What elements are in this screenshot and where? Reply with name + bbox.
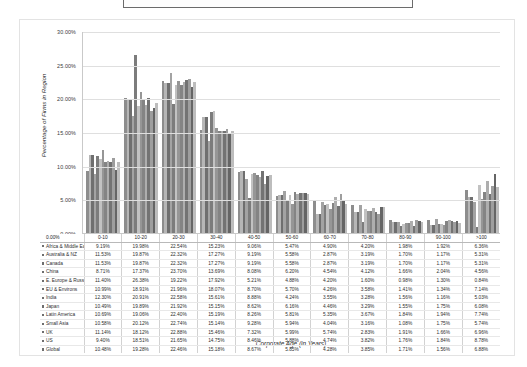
- y-tick-label: 25.00%: [57, 63, 76, 69]
- y-tick-label: 20.00%: [57, 96, 76, 102]
- table-cell: 3.29%: [349, 302, 387, 311]
- table-row: Australia & NZ11.53%19.87%22.32%17.27%9.…: [40, 251, 500, 260]
- table-cell: 3.16%: [349, 319, 387, 328]
- table-row-label: Australia & NZ: [40, 251, 84, 260]
- table-header-row: 0.00%0-1010-2020-3030-4040-5050-6060-707…: [40, 234, 500, 242]
- y-tick-label: 30.00%: [57, 29, 76, 35]
- table-cell: 10.99%: [84, 285, 122, 294]
- table-cell: 4.24%: [273, 294, 311, 303]
- table-column-header: 0-10: [84, 234, 122, 242]
- table-cell: 9.28%: [235, 319, 273, 328]
- table-cell: 5.31%: [462, 259, 500, 268]
- table-cell: 5.31%: [462, 251, 500, 260]
- table-row-label: US: [40, 337, 84, 346]
- table-cell: 11.40%: [84, 276, 122, 285]
- bar-group: [463, 31, 501, 233]
- bar: [155, 103, 158, 233]
- table-cell: 10.58%: [84, 319, 122, 328]
- table-cell: 4.74%: [311, 337, 349, 346]
- table-cell: 10.69%: [84, 311, 122, 320]
- table-cell: 8.70%: [235, 285, 273, 294]
- y-axis-labels: 30.00%25.00%20.00%15.00%10.00%5.00%0.00%: [20, 32, 80, 235]
- table-cell: 22.40%: [160, 311, 198, 320]
- table-cell: 10.49%: [84, 302, 122, 311]
- table-cell: 1.75%: [424, 319, 462, 328]
- table-column-header: >100: [462, 234, 500, 242]
- table-cell: 6.88%: [462, 345, 500, 353]
- table-column-header: 30-40: [197, 234, 235, 242]
- table-cell: 22.58%: [160, 294, 198, 303]
- table-cell: 23.70%: [160, 268, 198, 277]
- table-column-header: 50-60: [273, 234, 311, 242]
- table-cell: 1.70%: [387, 259, 425, 268]
- bar: [193, 82, 196, 233]
- table-cell: 21.92%: [160, 302, 198, 311]
- table-cell: 5.88%: [273, 337, 311, 346]
- table-cell: 5.35%: [311, 311, 349, 320]
- table-cell: 2.04%: [424, 268, 462, 277]
- table-cell: 8.67%: [235, 345, 273, 353]
- gridline: [83, 99, 500, 100]
- table-cell: 2.83%: [349, 328, 387, 337]
- table-cell: 1.60%: [349, 276, 387, 285]
- table-cell: 22.46%: [160, 345, 198, 353]
- table-cell: 3.85%: [349, 345, 387, 353]
- bar: [383, 207, 386, 233]
- table-cell: 5.58%: [273, 259, 311, 268]
- table-cell: 7.32%: [235, 328, 273, 337]
- table-cell: 4.54%: [311, 268, 349, 277]
- table-cell: 7.14%: [462, 285, 500, 294]
- table-cell: 5.74%: [462, 319, 500, 328]
- table-cell: 3.67%: [349, 311, 387, 320]
- table-cell: 18.07%: [197, 285, 235, 294]
- chart-frame: 30.00%25.00%20.00%15.00%10.00%5.00%0.00%…: [19, 19, 515, 356]
- table-cell: 6.36%: [462, 242, 500, 251]
- bar-series-container: [84, 31, 501, 233]
- table-cell: 11.53%: [84, 251, 122, 260]
- title-box: Percentage of Firms in Region by Corpora…: [123, 0, 413, 8]
- table-cell: 1.91%: [387, 328, 425, 337]
- table-cell: 15.61%: [197, 294, 235, 303]
- table-cell: 1.17%: [424, 251, 462, 260]
- table-cell: 9.19%: [235, 251, 273, 260]
- table-cell: 2.87%: [311, 259, 349, 268]
- table-cell: 18.51%: [122, 337, 160, 346]
- table-cell: 8.78%: [462, 337, 500, 346]
- gridline: [83, 32, 500, 33]
- table-row-label: Canada: [40, 259, 84, 268]
- data-table-body: Africa & Middle East9.19%19.98%22.54%15.…: [40, 242, 500, 353]
- table-cell: 5.21%: [235, 276, 273, 285]
- table-row-label: India: [40, 294, 84, 303]
- table-row: Africa & Middle East9.19%19.98%22.54%15.…: [40, 242, 500, 251]
- table-cell: 7.74%: [462, 311, 500, 320]
- table-column-header: 80-90: [387, 234, 425, 242]
- table-cell: 1.16%: [424, 294, 462, 303]
- table-cell: 1.66%: [387, 268, 425, 277]
- gridline: [83, 200, 500, 201]
- table-row: Japan10.49%19.89%21.92%15.15%8.62%6.16%4…: [40, 302, 500, 311]
- table-cell: 5.85%: [273, 345, 311, 353]
- table-cell: 17.92%: [197, 276, 235, 285]
- table-cell: 6.96%: [462, 328, 500, 337]
- bar-group: [274, 31, 312, 233]
- table-row: Canada11.53%19.87%22.32%17.27%9.19%5.58%…: [40, 259, 500, 268]
- table-cell: 22.74%: [160, 319, 198, 328]
- table-cell: 8.62%: [235, 302, 273, 311]
- table-cell: 19.98%: [122, 242, 160, 251]
- table-cell: 8.46%: [235, 337, 273, 346]
- table-cell: 1.76%: [387, 337, 425, 346]
- table-row: China8.71%17.37%23.70%13.69%8.08%6.20%4.…: [40, 268, 500, 277]
- bar: [496, 187, 499, 233]
- table-cell: 1.08%: [387, 319, 425, 328]
- table-cell: 15.23%: [197, 242, 235, 251]
- plot-area: [82, 32, 500, 234]
- table-cell: 9.06%: [235, 242, 273, 251]
- table-cell: 15.15%: [197, 302, 235, 311]
- table-cell: 1.98%: [387, 242, 425, 251]
- table-cell: 1.75%: [424, 302, 462, 311]
- table-row: Latin America10.69%19.06%22.40%15.19%8.2…: [40, 311, 500, 320]
- table-cell: 11.53%: [84, 259, 122, 268]
- table-column-header: 40-50: [235, 234, 273, 242]
- table-cell: 20.12%: [122, 319, 160, 328]
- table-cell: 19.28%: [122, 345, 160, 353]
